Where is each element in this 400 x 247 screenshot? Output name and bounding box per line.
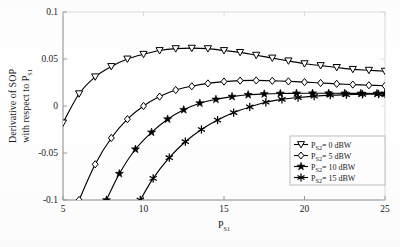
legend-label-value: = 5 dBW <box>322 152 352 161</box>
x-tick-label: 25 <box>380 204 390 214</box>
x-tick-label: 15 <box>219 204 229 214</box>
sop-derivative-chart: 510152025 -0.1-0.0500.050.1 PS1 Derivati… <box>0 0 400 247</box>
x-tick-label: 20 <box>300 204 310 214</box>
legend-label-value: = 10 dBW <box>322 163 356 172</box>
y-tick-label: 0.1 <box>46 7 58 17</box>
chart-legend: PS2= 0 dBWPS2= 5 dBWPS2= 10 dBWPS2= 15 d… <box>290 136 385 185</box>
y-axis-title-line2: with respect to PS1 <box>20 69 33 142</box>
y-tick-label: -0.05 <box>38 148 58 158</box>
y-tick-label: 0 <box>53 101 58 111</box>
y-tick-label: 0.05 <box>41 54 58 64</box>
x-tick-label: 5 <box>61 204 66 214</box>
legend-label-value: = 0 dBW <box>322 141 352 150</box>
y-axis-title-line1: Derivative of SOP <box>7 69 18 143</box>
y-tick-label: -0.1 <box>43 195 58 205</box>
y-axis-title-subscript: S1 <box>26 69 33 76</box>
x-axis-title-subscript: S1 <box>224 225 231 232</box>
legend-label-value: = 15 dBW <box>322 174 356 183</box>
x-tick-label: 10 <box>139 204 149 214</box>
